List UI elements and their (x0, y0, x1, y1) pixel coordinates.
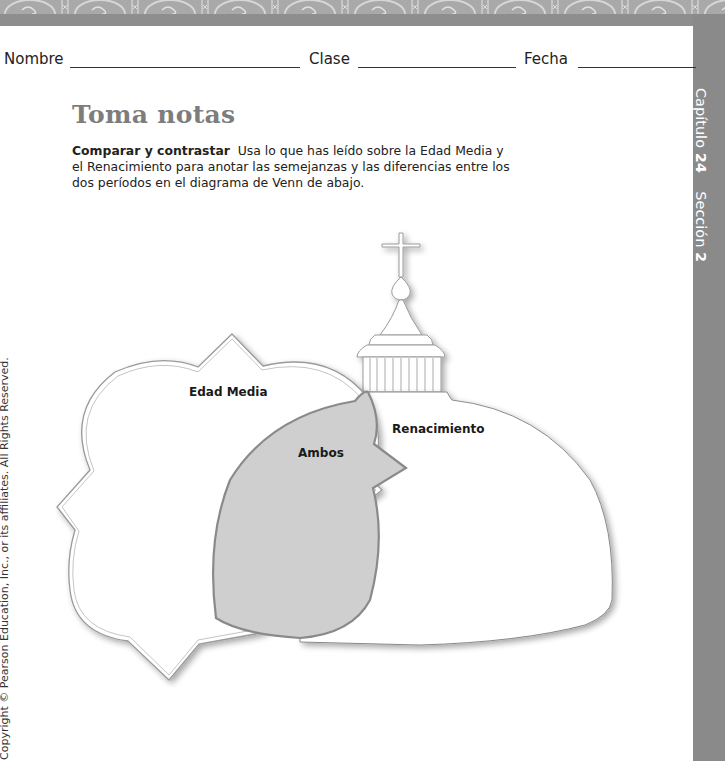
cross-icon (382, 233, 420, 277)
lantern-spire (380, 300, 422, 335)
decorative-top-border (0, 0, 725, 14)
section-number: 2 (693, 252, 709, 262)
edad-media-label: Edad Media (189, 385, 268, 399)
instructions-lead: Comparar y contrastar (72, 143, 230, 158)
dome-lantern (357, 233, 445, 392)
chapter-section-label: Capítulo 24 Sección 2 (693, 88, 709, 262)
class-label: Clase (309, 50, 350, 68)
instructions: Comparar y contrastar Usa lo que has leí… (72, 143, 512, 191)
venn-diagram: Edad Media Renacimiento Ambos (0, 190, 680, 714)
section-label: Sección (693, 191, 709, 247)
renacimiento-label: Renacimiento (392, 422, 485, 436)
lantern-orb (392, 277, 411, 300)
name-field[interactable] (70, 67, 300, 68)
page-title: Toma notas (72, 100, 235, 129)
name-label: Nombre (4, 50, 64, 68)
date-label: Fecha (524, 50, 568, 68)
chapter-label: Capítulo (693, 88, 709, 148)
chapter-number: 24 (693, 153, 709, 173)
class-field[interactable] (358, 67, 516, 68)
top-band (0, 14, 725, 26)
border-pattern (0, 0, 725, 14)
ambos-label: Ambos (298, 446, 344, 460)
date-field[interactable] (578, 67, 696, 68)
